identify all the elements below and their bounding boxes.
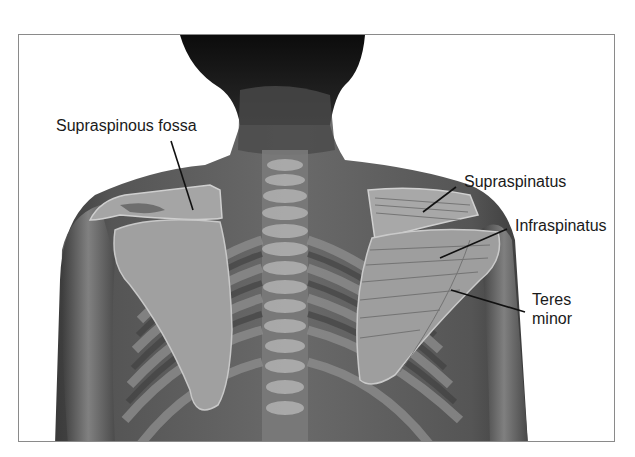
label-teres-minor: Teres minor: [532, 290, 572, 328]
left-arm: [62, 205, 115, 445]
label-supraspinous-fossa: Supraspinous fossa: [56, 116, 197, 135]
label-infraspinatus: Infraspinatus: [515, 216, 607, 235]
label-supraspinatus: Supraspinatus: [464, 172, 566, 191]
anatomy-figure: Supraspinous fossa Supraspinatus Infrasp…: [0, 0, 635, 457]
spine: [262, 150, 308, 445]
